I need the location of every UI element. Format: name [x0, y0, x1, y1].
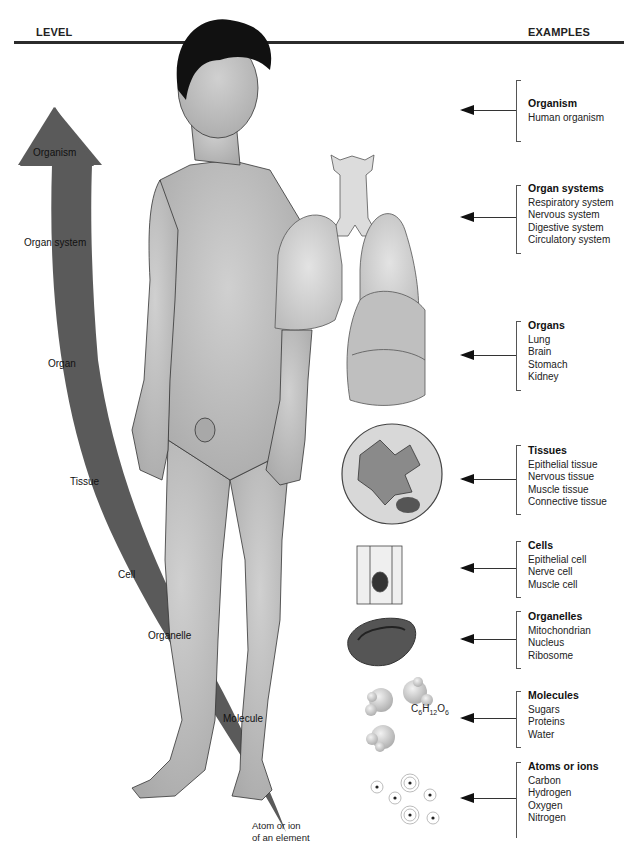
example-organism: Organism Human organism — [528, 97, 604, 124]
header-rule-line — [14, 41, 624, 44]
example-item: Nervous system — [528, 209, 614, 221]
example-item: Nitrogen — [528, 812, 599, 824]
example-title: Organelles — [528, 610, 591, 622]
example-item: Muscle cell — [528, 579, 586, 591]
example-item: Brain — [528, 346, 567, 358]
atoms-icon — [371, 774, 439, 824]
level-label-organ: Organ — [48, 358, 76, 369]
example-item: Lung — [528, 334, 567, 346]
level-label-atom-line1: Atom or ion — [252, 820, 310, 832]
example-item: Oxygen — [528, 800, 599, 812]
example-tissues: Tissues Epithelial tissue Nervous tissue… — [528, 444, 607, 508]
example-item: Circulatory system — [528, 234, 614, 246]
example-item: Sugars — [528, 704, 579, 716]
example-organelles: Organelles Mitochondrian Nucleus Ribosom… — [528, 610, 591, 662]
level-label-organ-system: Organ system — [24, 237, 86, 248]
bracket-organism — [516, 80, 521, 142]
glucose-formula: C6H12O6 — [411, 703, 449, 716]
example-title: Tissues — [528, 444, 607, 456]
arrow-cells — [462, 568, 516, 569]
arrow-molecules — [462, 718, 516, 719]
bracket-atoms — [516, 762, 521, 838]
bracket-molecules — [516, 691, 521, 748]
arrow-tissues — [462, 479, 516, 480]
example-item: Epithelial cell — [528, 554, 586, 566]
bracket-organ-systems — [516, 185, 521, 254]
example-item: Ribosome — [528, 650, 591, 662]
arrow-organ-systems — [462, 217, 516, 218]
example-item: Mitochondrian — [528, 625, 591, 637]
example-title: Cells — [528, 539, 586, 551]
level-label-atom-line2: of an element — [252, 832, 310, 844]
bracket-cells — [516, 541, 521, 598]
level-label-atom: Atom or ion of an element — [252, 820, 310, 844]
example-item: Stomach — [528, 359, 567, 371]
example-molecules: Molecules Sugars Proteins Water — [528, 689, 579, 741]
mitochondrion-icon — [348, 618, 416, 666]
organ-icon — [347, 291, 425, 405]
example-cells: Cells Epithelial cell Nerve cell Muscle … — [528, 539, 586, 591]
arrow-organelles — [462, 639, 516, 640]
bracket-organs — [516, 321, 521, 391]
example-item: Respiratory system — [528, 197, 614, 209]
bracket-tissues — [516, 445, 521, 515]
example-title: Organism — [528, 97, 604, 109]
level-label-tissue: Tissue — [70, 476, 99, 487]
example-item: Proteins — [528, 716, 579, 728]
example-title: Organ systems — [528, 182, 614, 194]
example-item: Water — [528, 729, 579, 741]
tissue-icon — [342, 424, 442, 524]
example-item: Kidney — [528, 371, 567, 383]
bracket-organelles — [516, 611, 521, 669]
example-item: Muscle tissue — [528, 484, 607, 496]
example-item: Connective tissue — [528, 496, 607, 508]
level-label-cell: Cell — [118, 569, 135, 580]
example-item: Nervous tissue — [528, 471, 607, 483]
example-item: Human organism — [528, 112, 604, 124]
arrow-atoms — [462, 798, 516, 799]
example-title: Molecules — [528, 689, 579, 701]
example-item: Digestive system — [528, 222, 614, 234]
arrow-organism — [462, 110, 516, 111]
human-body-icon — [132, 19, 312, 800]
level-label-molecule: Molecule — [223, 713, 263, 724]
example-item: Hydrogen — [528, 787, 599, 799]
example-title: Atoms or ions — [528, 760, 599, 772]
example-item: Nucleus — [528, 637, 591, 649]
example-item: Nerve cell — [528, 566, 586, 578]
arrow-organs — [462, 355, 516, 356]
example-atoms: Atoms or ions Carbon Hydrogen Oxygen Nit… — [528, 760, 599, 824]
example-organs: Organs Lung Brain Stomach Kidney — [528, 319, 567, 383]
level-label-organelle: Organelle — [148, 630, 191, 641]
cell-icon — [357, 546, 402, 604]
level-label-organism: Organism — [33, 147, 76, 158]
example-organ-systems: Organ systems Respiratory system Nervous… — [528, 182, 614, 246]
example-item: Epithelial tissue — [528, 459, 607, 471]
example-title: Organs — [528, 319, 567, 331]
example-item: Carbon — [528, 775, 599, 787]
